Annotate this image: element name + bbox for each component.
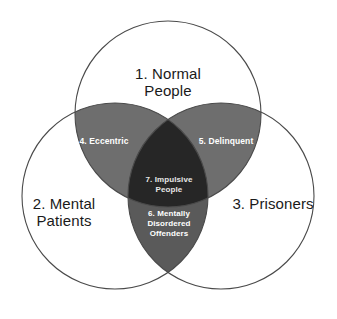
venn-diagram: 1. Normal People 2. Mental Patients 3. P… — [0, 0, 337, 319]
venn-diagram-canvas — [0, 0, 337, 319]
